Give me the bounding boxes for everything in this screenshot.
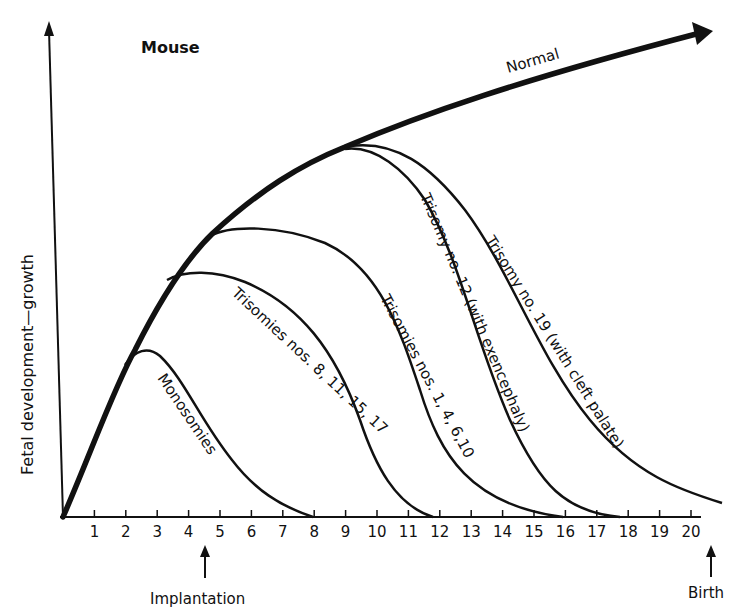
- x-tick-label: 8: [309, 523, 319, 541]
- y-axis: [44, 21, 63, 517]
- growth-chart: 1234567891011121314151617181920 Mouse Fe…: [0, 0, 745, 616]
- x-tick-label: 2: [121, 523, 131, 541]
- x-tick-label: 9: [341, 523, 351, 541]
- x-tick-label: 6: [247, 523, 257, 541]
- up-arrow-icon: [706, 545, 716, 557]
- x-tick-label: 11: [399, 523, 418, 541]
- x-tick-label: 12: [430, 523, 449, 541]
- x-tick-label: 10: [367, 523, 386, 541]
- x-tick-label: 7: [278, 523, 288, 541]
- x-tick-label: 5: [215, 523, 225, 541]
- label-trisomies-8-11-15-17: Trisomies nos. 8, 11, 15, 17: [228, 283, 392, 438]
- x-tick-label: 15: [524, 523, 543, 541]
- label-monosomies: Monosomies: [154, 370, 221, 458]
- x-tick-label: 13: [462, 523, 481, 541]
- x-tick-label: 16: [556, 523, 575, 541]
- birth-label: Birth: [688, 584, 724, 602]
- label-trisomies-1-4-6-10: Trisomies nos. 1, 4, 6,10: [376, 291, 478, 461]
- annotation-birth: Birth: [688, 545, 724, 602]
- curve-normal: [63, 33, 700, 517]
- curve-monosomies: [125, 350, 313, 517]
- label-trisomy-19: Trisomy no. 19 (with cleft palate): [481, 232, 628, 452]
- y-axis-arrow-icon: [44, 21, 54, 36]
- x-tick-label: 3: [152, 523, 162, 541]
- chart-title: Mouse: [141, 38, 200, 57]
- x-tick-label: 18: [619, 523, 638, 541]
- x-tick-label: 14: [493, 523, 512, 541]
- y-axis-label: Fetal development—growth: [18, 254, 37, 475]
- x-tick-label: 17: [587, 523, 606, 541]
- implantation-label: Implantation: [150, 590, 245, 608]
- x-tick-label: 4: [184, 523, 194, 541]
- up-arrow-icon: [200, 545, 210, 557]
- x-tick-label: 1: [90, 523, 100, 541]
- x-tick-label: 20: [681, 523, 700, 541]
- annotation-implantation: Implantation: [150, 545, 245, 608]
- normal-arrowhead-icon: [692, 22, 713, 45]
- x-tick-label: 19: [650, 523, 669, 541]
